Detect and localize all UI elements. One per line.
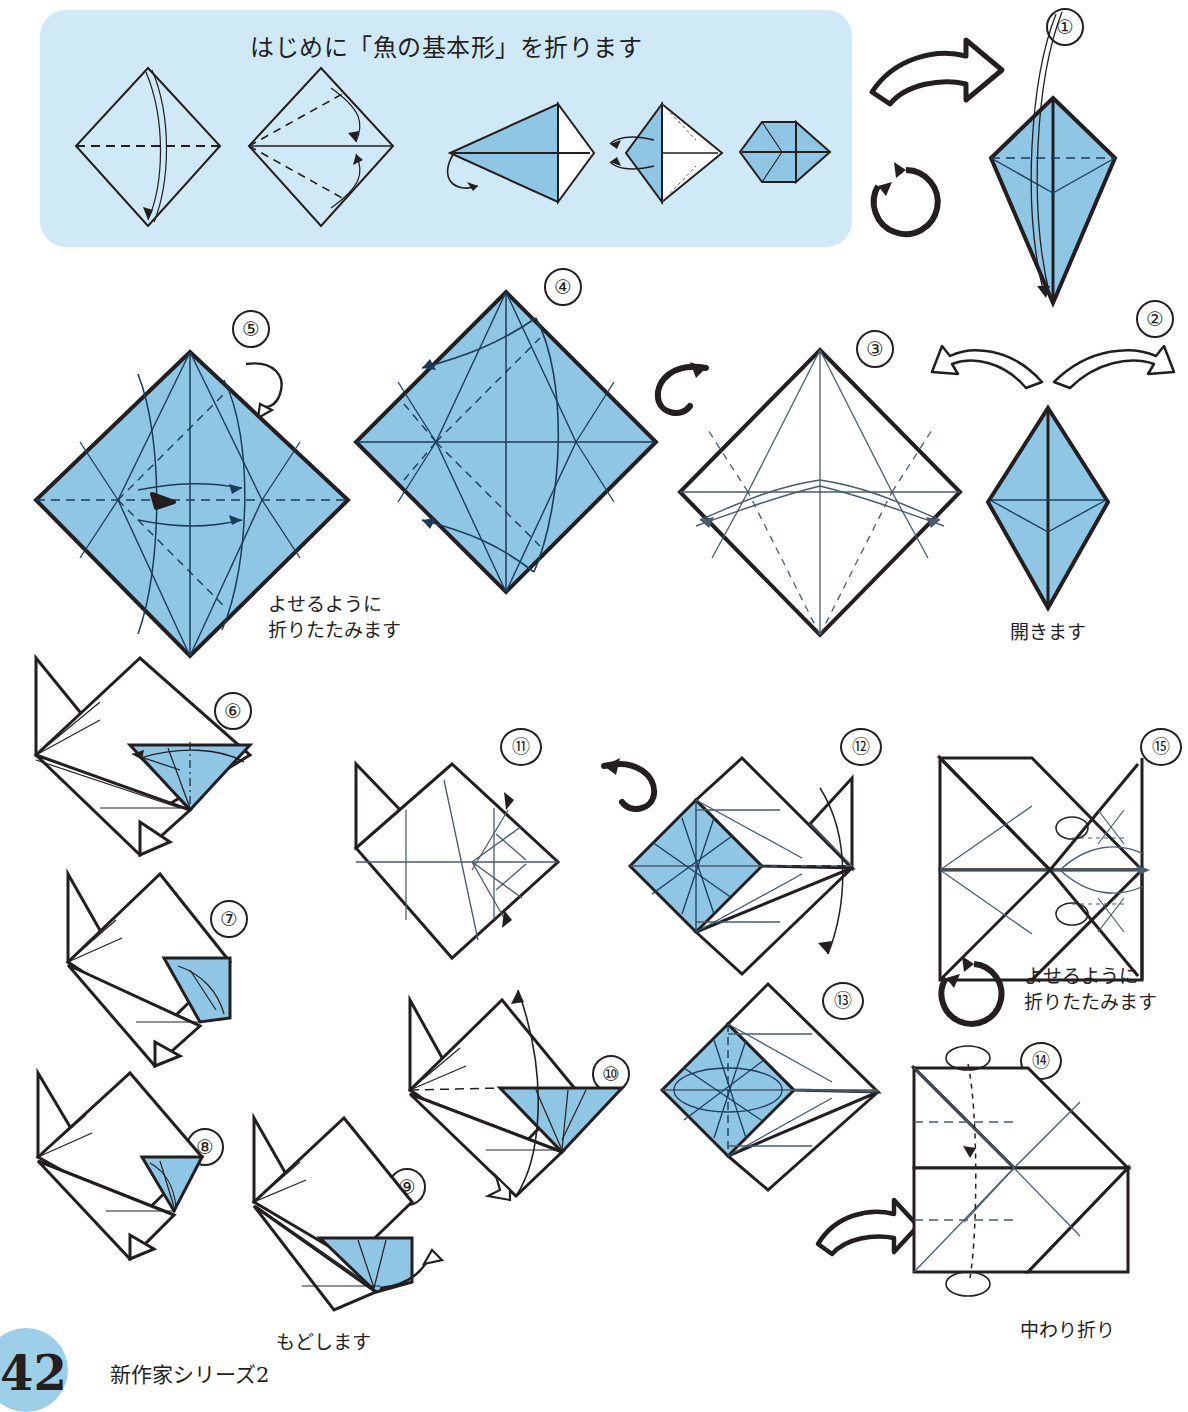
step-9-caption: もどします: [276, 1330, 371, 1356]
step-5-caption: よせるように 折りたたみます: [268, 592, 401, 643]
step-number-2: ②: [1136, 300, 1174, 338]
step-7-diagram: [30, 870, 280, 1090]
step-11-diagram: [346, 750, 596, 970]
intro-diagram-kite-side: [438, 98, 598, 208]
step-13-diagram: [650, 980, 910, 1190]
step-2-caption: 開きます: [1010, 620, 1086, 646]
rotate-arrow-icon-15: [934, 956, 1014, 1026]
intro-title: はじめに「魚の基本形」を折ります: [40, 28, 852, 63]
step-4-diagram: [348, 282, 668, 602]
step-3-diagram: [660, 330, 990, 660]
series-label: 新作家シリーズ2: [110, 1358, 269, 1388]
rotate-arrow-icon-1: [866, 162, 946, 242]
step-14-caption: 中わり折り: [1020, 1318, 1115, 1344]
step-1-diagram: [940, 8, 1170, 308]
step-8-diagram: [22, 1065, 252, 1280]
step-12-diagram: [622, 748, 892, 978]
page-number: 42: [0, 1345, 66, 1401]
step-10-diagram: [390, 990, 650, 1240]
intro-diagram-valley-fold: [68, 62, 228, 232]
intro-diagram-petal-fold: [610, 100, 740, 206]
step-15-caption: よせるように 折りたたみます: [1024, 964, 1157, 1015]
intro-panel: はじめに「魚の基本形」を折ります: [40, 10, 852, 247]
intro-diagram-fish-base: [730, 118, 840, 190]
step-14-diagram: [900, 1040, 1150, 1320]
step-6-diagram: [20, 650, 280, 890]
step-15-diagram: [912, 748, 1172, 988]
intro-diagram-kite-folds: [236, 62, 406, 232]
